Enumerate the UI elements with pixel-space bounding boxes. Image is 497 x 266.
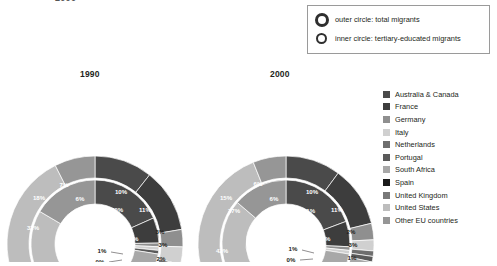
donut-svg-2000: 10%11%2%3%1%1%7%25%31%2%6% 21%7%7%19%42%… [196, 82, 376, 262]
legend-item[interactable]: South Africa [381, 164, 497, 177]
inner-circle-label: inner circle: tertiary-educated migrants [335, 34, 461, 43]
legend-row-outer-circle: outer circle: total migrants [313, 10, 484, 29]
legend-item[interactable]: Netherlands [381, 138, 497, 151]
legend-item[interactable]: Other EU countries [381, 214, 497, 227]
legend-label: South Africa [395, 165, 435, 174]
slice-percent-label: 7% [322, 235, 331, 242]
legend-swatch [383, 179, 390, 186]
outer-circle-label: outer circle: total migrants [335, 15, 420, 24]
inner-circle-icon [316, 33, 327, 44]
legend-item[interactable]: France [381, 101, 497, 114]
slice-percent-label: 3% [349, 241, 358, 248]
slice-percent-label: 6% [270, 195, 279, 202]
legend-swatch [383, 192, 390, 199]
leader-labels-1990: 1%0%1% [93, 247, 123, 262]
legend-label: Other EU countries [395, 216, 458, 225]
legend-swatch [383, 129, 390, 136]
slice-percent-label: 6% [76, 195, 85, 202]
slice-percent-label: 1% [98, 247, 107, 254]
legend-label: France [395, 102, 418, 111]
slice-percent-label: 21% [303, 207, 316, 214]
legend-item[interactable]: Spain [381, 176, 497, 189]
slice-percent-label: 2% [121, 256, 130, 262]
legend-swatch [383, 91, 390, 98]
ring-type-legend: outer circle: total migrants inner circl… [307, 5, 490, 54]
legend-label: Spain [395, 178, 414, 187]
legend-label: Australia & Canada [395, 90, 459, 99]
cut-off-year-label: 2000 [55, 0, 76, 3]
outer-circle-icon [315, 13, 329, 27]
slice-percent-label: 0% [96, 258, 105, 262]
slice-percent-label: 11% [139, 206, 151, 213]
donut-chart-1990: 10%11%3%3%2%2%7%19%28%2%7% 20%7%2%7%21%3… [5, 82, 185, 262]
legend-label: Italy [395, 128, 409, 137]
slice-percent-label: 0% [287, 256, 296, 262]
legend-swatch [383, 141, 390, 148]
slice-percent-label: 15% [220, 194, 233, 201]
slice-percent-label: 3% [159, 241, 168, 248]
slice-percent-label: 18% [33, 194, 46, 201]
slice-percent-label: 1% [289, 245, 298, 252]
leader-labels-2000: 1%0%0% [280, 245, 314, 262]
legend-swatch [383, 217, 390, 224]
slice-percent-label: 6% [254, 180, 263, 187]
leader-line [111, 252, 123, 254]
legend-item[interactable]: Germany [381, 113, 497, 126]
slice-percent-label: 7% [130, 235, 139, 242]
slice-percent-label: 37% [228, 207, 241, 214]
slice-percent-label: 10% [115, 188, 128, 195]
slice-percent-label: 20% [111, 206, 124, 213]
legend-label: Netherlands [395, 140, 435, 149]
slice-percent-label: 1% [348, 254, 357, 261]
slice-percent-label: 2% [157, 255, 166, 262]
legend-row-inner-circle: inner circle: tertiary-educated migrants [313, 29, 484, 48]
legend-swatch [383, 116, 390, 123]
slice-percent-label: 32% [27, 224, 40, 231]
slice-percent-label: 3% [156, 228, 165, 235]
legend-item[interactable]: United Kingdom [381, 189, 497, 202]
legend-item[interactable]: Portugal [381, 151, 497, 164]
legend-item[interactable]: Australia & Canada [381, 88, 497, 101]
legend-item[interactable]: Italy [381, 126, 497, 139]
legend-swatch [383, 154, 390, 161]
legend-swatch [383, 103, 390, 110]
chart-title-2000: 2000 [270, 69, 290, 79]
donut-svg-1990: 10%11%3%3%2%2%7%19%28%2%7% 20%7%2%7%21%3… [5, 82, 185, 262]
legend-label: United Kingdom [395, 191, 448, 200]
slice-percent-label: 10% [306, 188, 319, 195]
slice-percent-label: 11% [331, 206, 343, 213]
legend-swatch [383, 204, 390, 211]
leader-line [300, 259, 313, 260]
legend-swatch [383, 166, 390, 173]
slice-percent-label: 42% [216, 247, 229, 254]
legend-label: United States [395, 203, 439, 212]
slice-percent-label: 2% [347, 228, 356, 235]
leader-line [302, 250, 314, 253]
slice-percent-label: 7% [60, 181, 69, 188]
chart-title-1990: 1990 [80, 69, 100, 79]
donut-chart-2000: 10%11%2%3%1%1%7%25%31%2%6% 21%7%7%19%42%… [196, 82, 376, 262]
legend-item[interactable]: United States [381, 201, 497, 214]
legend-label: Portugal [395, 153, 423, 162]
legend-label: Germany [395, 115, 425, 124]
country-legend: Australia & Canada France Germany Italy … [381, 88, 497, 227]
